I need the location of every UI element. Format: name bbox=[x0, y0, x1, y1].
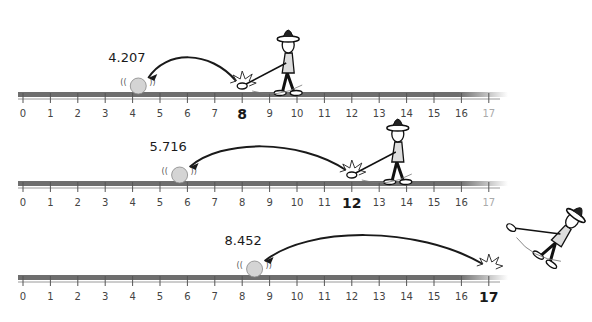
tick-label: 16 bbox=[455, 291, 468, 302]
tick-label: 2 bbox=[75, 108, 81, 119]
golfer-character-icon bbox=[502, 179, 592, 270]
tick-label: 16 bbox=[455, 197, 468, 208]
tick-label: 2 bbox=[75, 291, 81, 302]
tick-label: 10 bbox=[291, 108, 304, 119]
tick-label: 9 bbox=[266, 197, 272, 208]
number-line-row-1: 01234567891011121314151617(())4.207 bbox=[18, 30, 508, 122]
start-value-label: 8 bbox=[237, 106, 247, 122]
tick-label: 13 bbox=[373, 291, 386, 302]
start-value-label: 17 bbox=[479, 289, 498, 305]
golf-ball bbox=[172, 167, 188, 183]
tick-label: 9 bbox=[266, 108, 272, 119]
tick-label: 0 bbox=[20, 291, 26, 302]
tick-label: 14 bbox=[400, 197, 413, 208]
landing-value-label: 5.716 bbox=[150, 139, 187, 154]
ball-trajectory-arrow bbox=[148, 57, 236, 81]
tick-label: 13 bbox=[373, 197, 386, 208]
tick-label: 15 bbox=[428, 291, 441, 302]
number-line-row-2: 01234567891011121314151617(())5.716 bbox=[18, 119, 508, 211]
tick-label: 3 bbox=[102, 108, 108, 119]
start-value-label: 12 bbox=[342, 195, 361, 211]
landing-value-label: 4.207 bbox=[108, 50, 145, 65]
tick-label: 6 bbox=[184, 197, 190, 208]
tick-label: 0 bbox=[20, 197, 26, 208]
diagram-canvas: 01234567891011121314151617(())4.20701234… bbox=[0, 0, 592, 322]
tick-label: 17 bbox=[482, 108, 495, 119]
motion-marks-icon: (( bbox=[237, 261, 243, 270]
tick-label: 6 bbox=[184, 291, 190, 302]
tick-label: 1 bbox=[47, 291, 53, 302]
tick-label: 2 bbox=[75, 197, 81, 208]
tick-label: 6 bbox=[184, 108, 190, 119]
motion-marks-icon: (( bbox=[162, 167, 168, 176]
tick-label: 12 bbox=[345, 291, 358, 302]
golf-ball bbox=[247, 261, 263, 277]
motion-marks-icon: (( bbox=[120, 78, 126, 87]
tick-label: 11 bbox=[318, 291, 331, 302]
tick-label: 15 bbox=[428, 197, 441, 208]
tick-label: 4 bbox=[129, 291, 135, 302]
tick-label: 5 bbox=[157, 197, 163, 208]
tick-label: 5 bbox=[157, 291, 163, 302]
tick-label: 14 bbox=[400, 108, 413, 119]
tick-label: 15 bbox=[428, 108, 441, 119]
golf-number-line-diagram: 01234567891011121314151617(())4.20701234… bbox=[0, 0, 592, 322]
tick-label: 13 bbox=[373, 108, 386, 119]
tick-label: 17 bbox=[482, 197, 495, 208]
tick-label: 10 bbox=[291, 197, 304, 208]
tick-label: 1 bbox=[47, 108, 53, 119]
tick-label: 9 bbox=[266, 291, 272, 302]
tick-label: 3 bbox=[102, 197, 108, 208]
tick-label: 11 bbox=[318, 197, 331, 208]
ball-trajectory-arrow bbox=[265, 235, 483, 264]
tick-label: 7 bbox=[212, 291, 218, 302]
tick-label: 3 bbox=[102, 291, 108, 302]
tick-label: 1 bbox=[47, 197, 53, 208]
tick-label: 16 bbox=[455, 108, 468, 119]
tick-label: 4 bbox=[129, 108, 135, 119]
tick-label: 4 bbox=[129, 197, 135, 208]
tick-label: 14 bbox=[400, 291, 413, 302]
tick-label: 10 bbox=[291, 291, 304, 302]
impact-burst-icon bbox=[477, 254, 503, 269]
tick-label: 7 bbox=[212, 197, 218, 208]
tick-label: 0 bbox=[20, 108, 26, 119]
tick-label: 8 bbox=[239, 197, 245, 208]
golfer-character-icon bbox=[347, 119, 412, 185]
tick-label: 11 bbox=[318, 108, 331, 119]
tick-label: 5 bbox=[157, 108, 163, 119]
tick-label: 7 bbox=[212, 108, 218, 119]
golfer-character-icon bbox=[237, 30, 302, 96]
tick-label: 8 bbox=[239, 291, 245, 302]
ball-trajectory-arrow bbox=[190, 146, 346, 170]
landing-value-label: 8.452 bbox=[225, 233, 262, 248]
golf-ball bbox=[130, 78, 146, 94]
tick-label: 12 bbox=[345, 108, 358, 119]
